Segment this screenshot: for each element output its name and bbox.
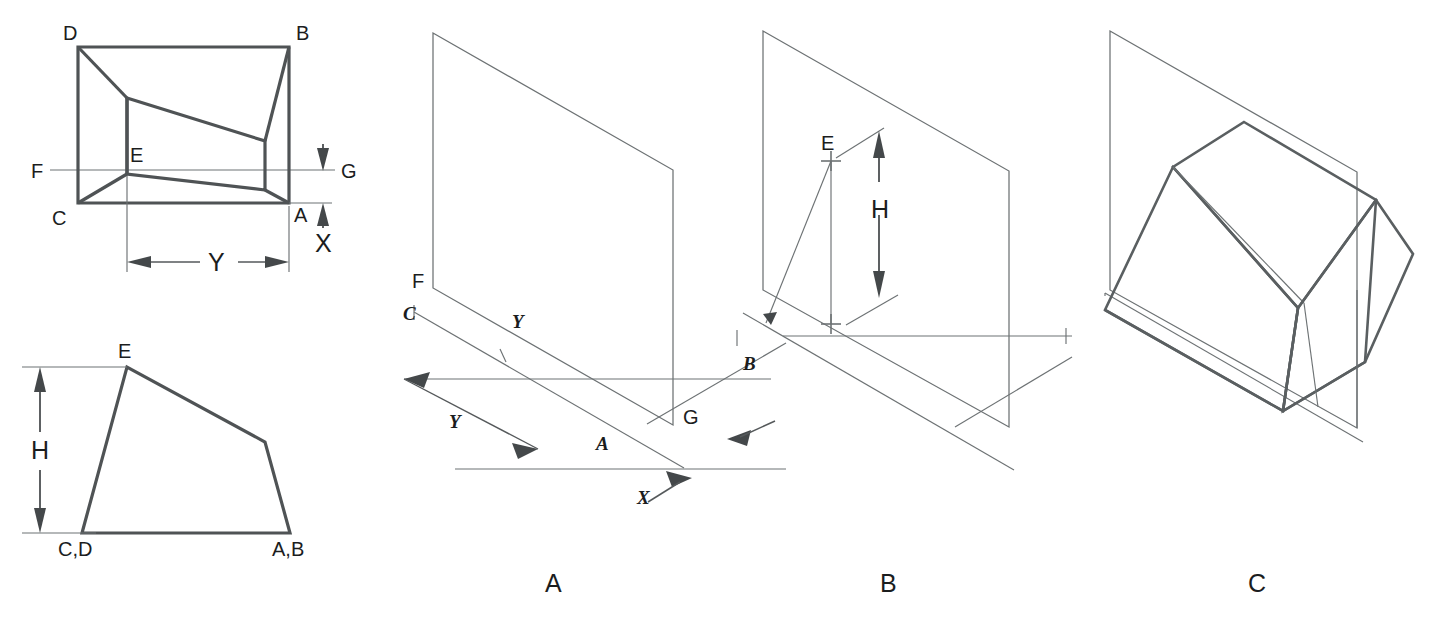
panel-c-caption: C bbox=[1248, 569, 1266, 597]
top-view: D B C A E F G Y X bbox=[31, 22, 357, 276]
panel-a-label-f: F bbox=[412, 270, 424, 292]
arrowhead-h-up bbox=[34, 367, 46, 392]
panel-a-arrow-y-right bbox=[512, 443, 538, 459]
top-view-edge-d-inner bbox=[78, 47, 127, 98]
dim-label-y: Y bbox=[208, 248, 225, 276]
top-view-edge-c-inner bbox=[78, 174, 127, 203]
drawing-canvas: D B C A E F G Y X bbox=[0, 0, 1432, 619]
panel-a-label-g: G bbox=[683, 406, 699, 428]
top-view-label-g: G bbox=[341, 160, 357, 182]
panel-a-dim-line-y bbox=[404, 379, 538, 449]
top-view-inner-face bbox=[127, 98, 265, 190]
panel-b: E H B bbox=[743, 31, 1072, 597]
panel-b-arrow-corner bbox=[763, 312, 777, 325]
panel-b-plane bbox=[763, 31, 1009, 427]
panel-a-arrow-x-right bbox=[666, 471, 692, 487]
front-view-label-ab: A,B bbox=[272, 538, 304, 560]
panel-a-arrow-b bbox=[727, 430, 751, 446]
panel-a-label-b: B bbox=[742, 353, 756, 374]
panel-c-ridge-crease bbox=[1173, 167, 1304, 303]
panel-c-base-front bbox=[1105, 293, 1363, 442]
panel-b-caption: B bbox=[880, 569, 897, 597]
panel-c: C bbox=[1105, 31, 1413, 597]
panel-a-base-line-right bbox=[647, 343, 786, 424]
panel-b-arrow-h-up bbox=[873, 131, 885, 158]
front-view-label-e: E bbox=[118, 340, 131, 362]
panel-b-base-edge bbox=[955, 357, 1072, 427]
panel-a-label-y-tick: Y bbox=[512, 311, 526, 332]
top-view-dimension-x: X bbox=[289, 144, 332, 257]
top-view-label-f: F bbox=[31, 160, 43, 182]
front-view: H E C,D A,B bbox=[22, 340, 304, 560]
front-view-outline bbox=[82, 367, 290, 533]
top-view-label-d: D bbox=[63, 22, 77, 44]
panel-b-marker-e bbox=[821, 151, 841, 171]
panel-b-slope-line bbox=[766, 161, 831, 323]
dim-label-h: H bbox=[31, 436, 49, 464]
dim-label-x: X bbox=[315, 229, 332, 257]
arrowhead-h-down bbox=[34, 508, 46, 533]
top-view-edge-a-inner bbox=[265, 190, 289, 203]
panel-c-solid-thin-edge bbox=[1304, 303, 1318, 407]
panel-a-label-y-dim: Y bbox=[449, 411, 463, 432]
panel-a: F C Y Y A G B X A bbox=[403, 33, 786, 597]
panel-a-dim-line-x bbox=[648, 482, 680, 502]
top-view-label-c: C bbox=[52, 207, 66, 229]
top-view-label-b: B bbox=[296, 22, 309, 44]
panel-b-label-e: E bbox=[821, 132, 834, 154]
panel-a-dim-line-b bbox=[740, 421, 775, 437]
panel-a-tick-y bbox=[500, 349, 506, 362]
panel-a-base-line-front bbox=[414, 312, 684, 468]
top-view-edge-b-inner bbox=[265, 47, 289, 141]
top-view-label-e: E bbox=[130, 144, 143, 166]
panel-b-marker-base bbox=[821, 314, 841, 334]
panel-b-label-h: H bbox=[871, 195, 889, 223]
arrowhead-y-left bbox=[127, 256, 151, 268]
arrowhead-x-down bbox=[317, 148, 329, 171]
panel-b-arrow-h-down bbox=[873, 271, 885, 298]
arrowhead-x-up bbox=[317, 203, 329, 226]
panel-c-solid-inner-edge bbox=[1283, 308, 1298, 411]
panel-a-label-a: A bbox=[595, 433, 609, 454]
panel-a-label-x: X bbox=[636, 487, 651, 508]
front-view-dimension-h: H bbox=[31, 367, 49, 533]
panel-a-caption: A bbox=[545, 569, 562, 597]
panel-c-solid-right-face bbox=[1283, 200, 1413, 411]
panel-c-solid-left-face bbox=[1105, 167, 1298, 411]
front-view-label-cd: C,D bbox=[58, 538, 92, 560]
technical-drawing-figure: D B C A E F G Y X bbox=[0, 0, 1432, 619]
arrowhead-y-right bbox=[265, 256, 289, 268]
panel-b-ext-h-bottom bbox=[846, 295, 898, 325]
top-view-label-a: A bbox=[294, 204, 308, 226]
panel-a-label-c: C bbox=[403, 303, 416, 324]
panel-a-plane bbox=[433, 33, 673, 425]
